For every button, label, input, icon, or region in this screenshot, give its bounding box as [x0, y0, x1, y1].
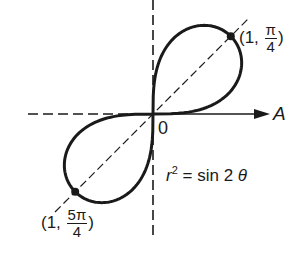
- origin-label: 0: [158, 119, 168, 137]
- numerator: π: [265, 22, 277, 39]
- lemniscate-diagram: (1, π 4 ) (1, 5π 4 ) 0 A r2 = sin 2 θ: [0, 0, 304, 261]
- point-upper-label: (1, π 4 ): [239, 22, 284, 55]
- arrowhead-icon: [254, 109, 270, 119]
- denominator: 4: [267, 39, 275, 55]
- fraction: 5π 4: [67, 207, 88, 240]
- point-lower: [71, 188, 79, 196]
- label-close: ): [88, 213, 94, 232]
- eq-theta: θ: [238, 166, 247, 185]
- equation-label: r2 = sin 2 θ: [166, 165, 247, 184]
- label-close: ): [278, 28, 284, 47]
- eq-exp: 2: [172, 164, 178, 176]
- label-open: (1,: [239, 28, 259, 47]
- numerator: 5π: [67, 207, 88, 224]
- axis-label: A: [273, 104, 286, 123]
- fraction: π 4: [265, 22, 277, 55]
- point-upper: [227, 32, 235, 40]
- label-open: (1,: [41, 213, 61, 232]
- denominator: 4: [73, 224, 81, 240]
- point-lower-label: (1, 5π 4 ): [41, 207, 94, 240]
- eq-rhs: = sin 2: [183, 166, 234, 185]
